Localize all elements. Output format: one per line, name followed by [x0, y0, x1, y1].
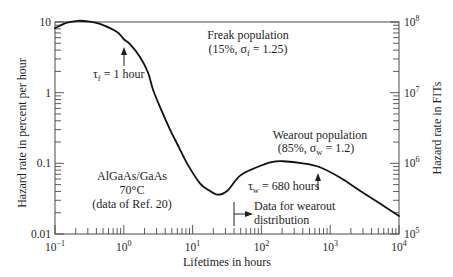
x-tick-label-exponent: 1 [196, 239, 200, 248]
material-label: AlGaAs/GaAs [97, 169, 167, 183]
x-axis-title: Lifetimes in hours [183, 255, 271, 269]
tau-w-post: = 680 hours [259, 179, 320, 193]
tau-f-post: = 1 hour [101, 67, 145, 81]
x-tick-label-base: 10 [45, 241, 57, 253]
x-tick-label-exponent: −1 [56, 239, 65, 248]
tau-w-label: τw = 680 hours [248, 179, 320, 195]
wearout-params-pre: (85%, σ [278, 141, 317, 155]
y-axis-title-left: Hazard rate in percent per hour [15, 58, 29, 208]
freak-params-post: = 1.25) [250, 42, 288, 56]
y-right-tick-label-exponent: 8 [416, 14, 420, 23]
x-tick-label-exponent: 0 [128, 239, 132, 248]
x-tick-label-exponent: 4 [403, 239, 407, 248]
tau-f-label: τf = 1 hour [93, 67, 144, 83]
y-right-tick-label-exponent: 5 [416, 226, 420, 235]
wearout-params-post: = 1.2) [322, 141, 354, 155]
y-left-tick-label: 10 [40, 16, 52, 28]
data-reference-label: (data of Ref. 20) [92, 197, 171, 211]
y-right-tick-label-exponent: 7 [416, 85, 420, 94]
wearout-data-note-line1: Data for wearout [254, 199, 336, 213]
x-tick-label-base: 10 [322, 241, 334, 253]
y-right-tick-label-base: 10 [404, 157, 416, 169]
freak-population-label: Freak population [207, 28, 289, 42]
y-right-tick-label-exponent: 6 [416, 155, 420, 164]
freak-params-pre: (15%, σ [208, 42, 247, 56]
y-axis-title-right: Hazard rate in FITs [430, 81, 444, 174]
y-right-tick-label-base: 10 [404, 87, 416, 99]
wearout-population-label: Wearout population [273, 128, 368, 142]
x-tick-label-base: 10 [254, 241, 266, 253]
y-left-tick-label: 0.01 [31, 228, 51, 240]
y-left-tick-label: 0.1 [37, 157, 52, 169]
x-tick-label-exponent: 3 [334, 239, 338, 248]
x-tick-label-base: 10 [185, 241, 197, 253]
y-left-tick-label: 1 [45, 87, 51, 99]
wearout-population-params: (85%, σw = 1.2) [278, 141, 354, 157]
x-tick-label-base: 10 [391, 241, 403, 253]
hazard-rate-chart: 10−11001011021031041010.10.0110810710610… [0, 0, 453, 277]
y-right-tick-label-base: 10 [404, 228, 416, 240]
y-right-tick-label-base: 10 [404, 16, 416, 28]
x-tick-label-base: 10 [116, 241, 128, 253]
x-tick-label-exponent: 2 [265, 239, 269, 248]
temperature-label: 70°C [120, 183, 145, 197]
wearout-data-note-line2: distribution [254, 213, 309, 227]
